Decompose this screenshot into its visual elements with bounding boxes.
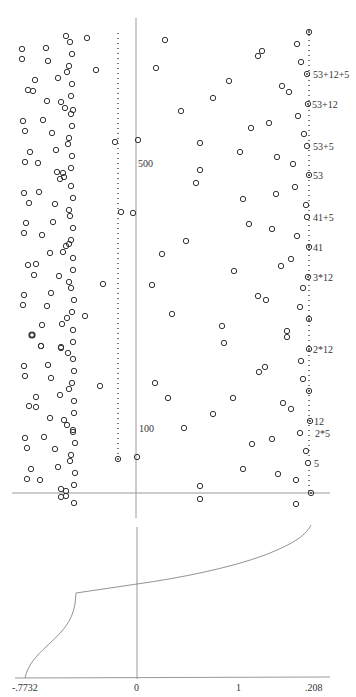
label-100: 100 [139,423,154,434]
label-2x12: 2*12 [313,344,333,355]
label-53: 53 [313,170,323,181]
label-2x5: 2*5 [315,428,330,439]
x-tick-min: -.7732 [12,682,38,693]
scatter-points-left-cluster [19,33,98,505]
label-53-12-5: 53+12+5 [313,69,349,80]
label-5: 5 [314,458,319,469]
label-41: 41 [313,242,323,253]
label-53-5: 53+5 [313,141,334,152]
x-tick-zero: 0 [134,682,139,693]
x-tick-max: .208 [305,682,323,693]
x-tick-one: 1 [236,682,241,693]
chart-canvas: 500 100 53+12+5 53+12 53+5 53 41+5 41 3*… [0,0,356,697]
label-500: 500 [138,158,153,169]
lower-baseline [15,677,330,678]
label-3x12: 3*12 [313,272,333,283]
distribution-curve [25,525,311,678]
curve-plot: -.7732 0 1 .208 [12,525,330,693]
label-12: 12 [314,416,324,427]
scatter-points-right-cluster [159,41,308,506]
label-41-5: 41+5 [313,212,334,223]
scatter-plot: 500 100 53+12+5 53+12 53+5 53 41+5 41 3*… [12,18,349,518]
right-annotations: 53+12+5 53+12 53+5 53 41+5 41 3*12 2*12 … [312,69,349,469]
label-53-12: 53+12 [312,99,338,110]
